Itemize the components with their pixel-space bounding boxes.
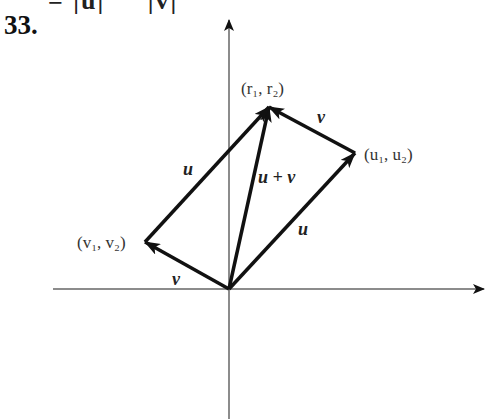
vector-label-u-upper: u [183, 159, 193, 179]
vector-sum [229, 107, 269, 289]
vector-label-sum: u + v [258, 167, 296, 187]
vector-v-translated [269, 107, 355, 153]
vector-u-translated [145, 107, 269, 242]
vector-label-v-lower: v [172, 269, 181, 289]
point-label-u: (u₁, u₂) [364, 145, 413, 164]
point-label-r: (r₁, r₂) [241, 79, 284, 98]
vector-label-v-upper: v [317, 107, 326, 127]
vector-v-from-origin [145, 242, 229, 289]
vector-addition-diagram: (r₁, r₂) (u₁, u₂) (v₁, v₂) u v u + v u v [0, 0, 487, 419]
vector-label-u-lower: u [298, 219, 308, 239]
point-label-v: (v₁, v₂) [77, 233, 126, 252]
